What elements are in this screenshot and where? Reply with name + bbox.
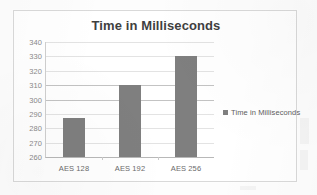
chart-legend: Time in Milliseconds bbox=[223, 108, 300, 117]
x-axis-tick-mark bbox=[158, 157, 159, 160]
y-axis-tick-label: 320 bbox=[29, 66, 42, 75]
y-axis-tick-label: 340 bbox=[29, 38, 42, 47]
x-axis-category-label: AES 256 bbox=[171, 164, 201, 173]
scan-artifact bbox=[240, 186, 256, 190]
y-axis-tick-label: 330 bbox=[29, 52, 42, 61]
chart-title: Time in Milliseconds bbox=[14, 18, 298, 33]
y-axis-tick-label: 290 bbox=[29, 109, 42, 118]
x-axis-category-label: AES 128 bbox=[59, 164, 89, 173]
scan-artifact bbox=[300, 150, 308, 170]
plot-area: 340330320310300290280270260AES 128AES 19… bbox=[45, 42, 214, 158]
scan-artifact bbox=[300, 118, 309, 144]
chart-container: Time in Milliseconds 3403303203103002902… bbox=[13, 10, 297, 182]
gridline bbox=[46, 42, 214, 43]
y-axis-tick-label: 260 bbox=[29, 153, 42, 162]
legend-entry-label: Time in Milliseconds bbox=[231, 108, 300, 117]
legend-square-marker-icon bbox=[223, 110, 228, 115]
bar-aes-128 bbox=[63, 118, 85, 157]
y-axis-tick-label: 300 bbox=[29, 95, 42, 104]
bar-aes-256 bbox=[175, 56, 197, 157]
bar-aes-192 bbox=[119, 85, 141, 157]
y-axis-tick-label: 280 bbox=[29, 124, 42, 133]
y-axis-tick-label: 270 bbox=[29, 138, 42, 147]
x-axis-category-label: AES 192 bbox=[115, 164, 145, 173]
scanned-page-background: Time in Milliseconds 3403303203103002902… bbox=[0, 0, 317, 195]
x-axis-tick-mark bbox=[102, 157, 103, 160]
y-axis-tick-label: 310 bbox=[29, 81, 42, 90]
